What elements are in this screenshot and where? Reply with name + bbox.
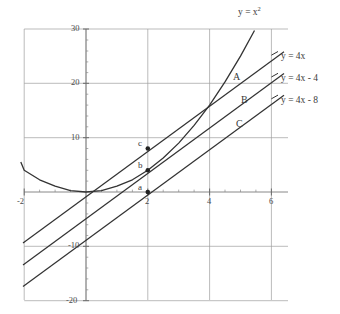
- label-line-A-equation: y = 4x: [281, 52, 305, 62]
- series-line-A: [23, 52, 284, 243]
- label-point-a: a: [138, 183, 142, 192]
- xtick-label-2: 2: [145, 197, 149, 206]
- chart-figure: y = x2 y = 4x y = 4x - 4 y = 4x - 8 A B …: [0, 0, 340, 314]
- point-b-marker: [146, 168, 151, 173]
- label-curve-A: A: [233, 72, 240, 82]
- label-curve-C: C: [236, 119, 243, 129]
- label-line-B-equation: y = 4x - 4: [281, 74, 318, 84]
- ytick-label--10: -10: [68, 241, 79, 250]
- label-point-b: b: [138, 161, 143, 170]
- label-line-C-equation: y = 4x - 8: [281, 96, 318, 106]
- point-a-marker: [146, 190, 151, 195]
- label-point-c: c: [138, 139, 142, 148]
- point-c-marker: [146, 146, 151, 151]
- y-axis: [83, 29, 89, 301]
- label-parabola-exponent: 2: [258, 5, 261, 12]
- grid-vertical: [24, 29, 271, 300]
- xtick-label-4: 4: [207, 197, 211, 206]
- ytick-label-30: 30: [71, 24, 80, 33]
- grid-horizontal: [24, 29, 288, 301]
- label-curve-B: B: [241, 95, 248, 105]
- leader-line-B: [271, 73, 278, 77]
- leader-line-A: [271, 52, 278, 56]
- xtick-label--2: -2: [17, 197, 24, 206]
- xtick-label-6: 6: [269, 197, 273, 206]
- leader-line-C: [271, 95, 278, 99]
- ytick-label--20: -20: [66, 296, 77, 305]
- label-parabola-equation-text: y = x: [238, 7, 258, 17]
- label-parabola-equation: y = x2: [238, 8, 261, 18]
- ytick-label-20: 20: [71, 78, 80, 87]
- series-line-C: [23, 95, 284, 286]
- plot-canvas: [0, 0, 340, 314]
- ytick-label-10: 10: [71, 133, 80, 142]
